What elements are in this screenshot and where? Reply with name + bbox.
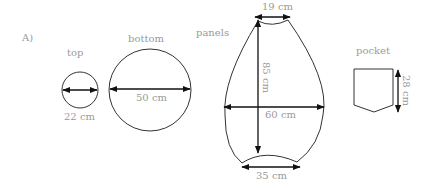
bottom-circle — [109, 49, 191, 131]
pocket-outline — [354, 69, 393, 112]
pocket-height: 28 cm — [401, 75, 412, 107]
pocket-piece: pocket 28 cm — [354, 45, 412, 112]
panel-bottom-width: 35 cm — [256, 170, 288, 181]
top-label: top — [67, 47, 83, 58]
panel-top-width: 19 cm — [262, 1, 294, 12]
pocket-label: pocket — [356, 45, 390, 56]
bottom-dimension: 50 cm — [136, 92, 168, 103]
panels-label: panels — [196, 27, 229, 38]
panel-height: 85 cm — [261, 62, 272, 94]
figure-label: A) — [21, 32, 33, 43]
sewing-pattern-diagram: A) top 22 cm bottom 50 cm panels 19 cm 8… — [0, 0, 433, 188]
top-dimension: 22 cm — [64, 111, 96, 122]
panel-outline — [225, 20, 324, 163]
panels-piece: panels 19 cm 85 cm 60 cm 35 cm — [196, 1, 324, 181]
panel-max-width: 60 cm — [265, 109, 297, 120]
bottom-label: bottom — [128, 33, 164, 44]
top-piece: top 22 cm — [62, 47, 98, 122]
bottom-piece: bottom 50 cm — [109, 33, 191, 131]
